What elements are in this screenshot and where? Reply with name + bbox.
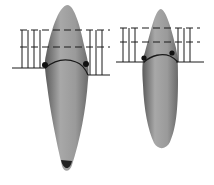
right-marker-distal xyxy=(169,50,174,55)
tooth-diagram xyxy=(0,0,214,185)
diagram-canvas xyxy=(0,0,214,185)
left-tooth xyxy=(12,5,110,171)
right-tooth xyxy=(116,9,204,148)
left-marker-distal xyxy=(83,61,89,67)
left-marker-mesial xyxy=(42,62,48,68)
right-marker-mesial xyxy=(141,55,146,60)
right-tooth-body xyxy=(142,9,178,148)
